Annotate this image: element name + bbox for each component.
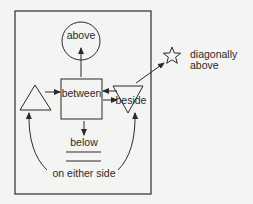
beside-label: beside (116, 94, 147, 106)
diagonally-above-label: above (190, 59, 219, 71)
arrow-to-diagonally-above (136, 63, 164, 83)
left-triangle (20, 85, 51, 110)
on-either-side-label: on either side (52, 167, 115, 179)
arc-left (29, 113, 47, 170)
between-label: between (62, 87, 102, 99)
spatial-relations-diagram: above between beside diagonally above be… (0, 0, 253, 204)
star-icon (163, 47, 180, 63)
below-label: below (70, 136, 98, 148)
between-box (61, 79, 102, 119)
above-label: above (67, 29, 96, 41)
arc-right (118, 113, 135, 170)
